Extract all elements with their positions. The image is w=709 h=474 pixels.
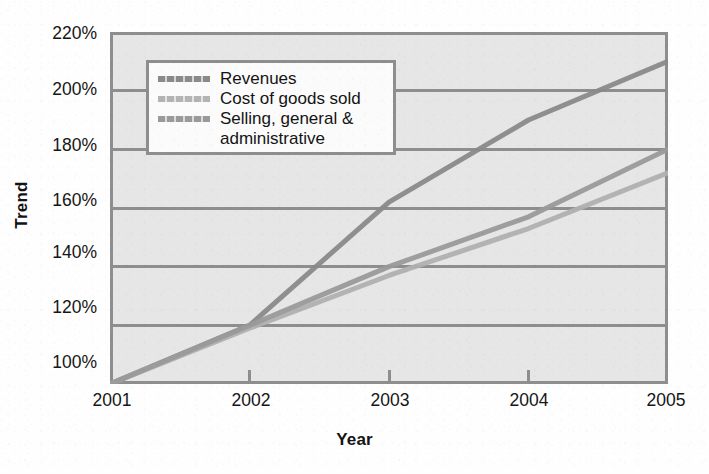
chart-legend: Revenues Cost of goods sold Selling, gen… [146,60,396,155]
y-tick-label-160: 160% [7,192,97,210]
y-tick-label-220: 220% [7,25,97,43]
y-tick-label-180: 180% [7,137,97,155]
x-tick-label-2002: 2002 [206,392,296,410]
x-tick-label-2001: 2001 [67,392,157,410]
chart-page: Trend 220% 200% 180% 160% 140% 120% 100%… [0,0,709,474]
legend-label-sga-continuation: administrative [220,129,325,149]
legend-items: Revenues Cost of goods sold Selling, gen… [158,69,387,149]
legend-swatch-sga [158,116,210,122]
legend-label-cost-of-goods-sold: Cost of goods sold [220,89,361,109]
legend-item-cost-of-goods-sold: Cost of goods sold [158,89,387,109]
x-tick-label-2005: 2005 [621,392,709,410]
y-tick-label-100: 100% [7,354,97,372]
y-tick-label-140: 140% [7,244,97,262]
y-tick-label-200: 200% [7,81,97,99]
legend-item-sga-continuation: administrative [158,129,387,149]
x-tick-label-2003: 2003 [345,392,435,410]
x-axis-title: Year [0,430,709,450]
legend-swatch-cost-of-goods-sold [158,96,210,102]
legend-label-revenues: Revenues [220,69,297,89]
legend-item-revenues: Revenues [158,69,387,89]
legend-swatch-revenues [158,76,210,82]
x-tick-label-2004: 2004 [484,392,574,410]
y-tick-label-120: 120% [7,299,97,317]
legend-label-sga: Selling, general & [220,109,353,129]
legend-item-sga: Selling, general & [158,109,387,129]
